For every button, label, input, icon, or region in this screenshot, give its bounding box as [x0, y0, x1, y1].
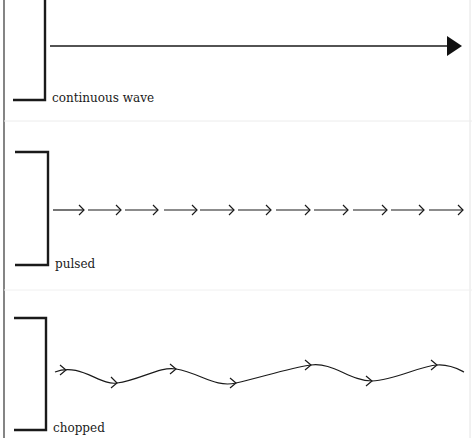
arrowhead-icon [447, 36, 462, 56]
panel-chopped: chopped [14, 318, 464, 435]
panel-continuous-wave: continuous wave [13, 0, 462, 105]
chopped-wave-path [55, 365, 464, 384]
pulse-arrows [53, 205, 463, 215]
bracket-icon [14, 318, 46, 430]
label-continuous-wave: continuous wave [52, 91, 154, 105]
label-chopped: chopped [53, 421, 105, 435]
bracket-icon [13, 0, 45, 100]
panel-pulsed: pulsed [15, 152, 463, 271]
bracket-icon [15, 152, 48, 265]
wave-types-diagram: continuous wave pulsed [0, 0, 472, 438]
label-pulsed: pulsed [55, 257, 96, 271]
chopped-arrowheads [60, 360, 437, 388]
